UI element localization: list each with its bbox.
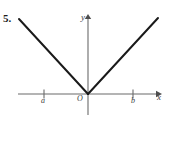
figure-container: 5. y x O a b [0, 0, 169, 158]
graph-left-ray [19, 19, 88, 94]
tick-label-a: a [41, 97, 45, 105]
graph-canvas [0, 0, 169, 158]
origin-label: O [77, 95, 83, 103]
y-axis-label: y [81, 13, 85, 22]
y-axis-arrowhead [85, 14, 91, 19]
tick-label-b: b [131, 97, 135, 105]
graph-right-ray [88, 18, 158, 94]
problem-number-label: 5. [3, 13, 11, 24]
x-axis-label: x [157, 93, 161, 102]
